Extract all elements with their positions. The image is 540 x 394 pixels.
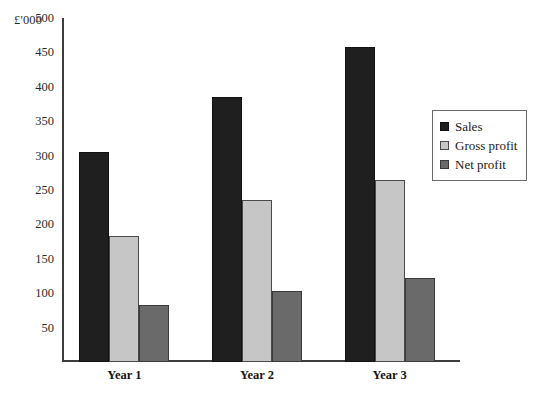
legend-item-sales: Sales (440, 117, 517, 136)
bar-net-profit-year-3 (405, 278, 435, 362)
y-axis-tick-labels: 50100150200250300350400450500 (0, 0, 54, 394)
legend-label-sales: Sales (455, 119, 482, 135)
y-axis-tick-250: 250 (35, 183, 54, 198)
x-axis-label-year-3: Year 3 (373, 368, 407, 383)
bar-gross-profit-year-1 (109, 236, 139, 362)
bar-group-year-1 (79, 18, 169, 362)
bar-gross-profit-year-2 (242, 200, 272, 362)
legend-swatch-net-profit-icon (440, 160, 449, 169)
bar-group-year-3 (345, 18, 435, 362)
y-axis-tick-300: 300 (35, 148, 54, 163)
bar-group-year-2 (212, 18, 302, 362)
y-axis-tick-500: 500 (35, 11, 54, 26)
y-axis-tick-400: 400 (35, 79, 54, 94)
y-axis-tick-100: 100 (35, 286, 54, 301)
bar-net-profit-year-2 (272, 291, 302, 362)
y-axis-tick-200: 200 (35, 217, 54, 232)
bar-sales-year-2 (212, 97, 242, 362)
legend-item-gross-profit: Gross profit (440, 136, 517, 155)
legend-swatch-sales-icon (440, 122, 449, 131)
y-axis-tick-350: 350 (35, 114, 54, 129)
y-axis-tick-50: 50 (42, 320, 55, 335)
legend-swatch-gross-profit-icon (440, 141, 449, 150)
x-axis-label-year-2: Year 2 (240, 368, 274, 383)
bar-chart: £'000 50100150200250300350400450500 Sale… (0, 0, 540, 394)
legend-label-gross-profit: Gross profit (455, 138, 517, 154)
legend-item-net-profit: Net profit (440, 155, 517, 174)
bar-gross-profit-year-3 (375, 180, 405, 362)
bar-net-profit-year-1 (139, 305, 169, 362)
bar-sales-year-3 (345, 47, 375, 362)
x-axis-label-year-1: Year 1 (107, 368, 141, 383)
chart-legend: Sales Gross profit Net profit (432, 110, 527, 181)
bar-sales-year-1 (79, 152, 109, 362)
y-axis-tick-450: 450 (35, 45, 54, 60)
y-axis-tick-150: 150 (35, 251, 54, 266)
plot-area (62, 18, 460, 362)
legend-label-net-profit: Net profit (455, 157, 506, 173)
